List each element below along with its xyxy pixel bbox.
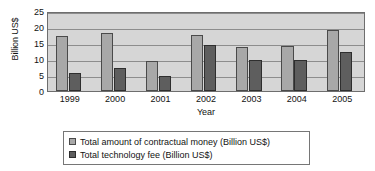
bar (340, 52, 352, 91)
y-axis-tick-label: 25 (34, 8, 44, 17)
bar (204, 45, 216, 91)
legend-swatch-icon (69, 151, 76, 158)
chart-legend: Total amount of contractual money (Billi… (63, 131, 310, 165)
bar (249, 60, 261, 91)
x-axis-tick-label: 2002 (183, 94, 228, 108)
legend-item: Total technology fee (Billion US$) (69, 148, 304, 161)
bar-group (138, 13, 183, 91)
bar (281, 46, 293, 91)
y-axis-tick-label: 10 (34, 56, 44, 65)
x-axis-tick-label: 2005 (320, 94, 365, 108)
bar (294, 60, 306, 91)
y-axis-tick-label: 20 (34, 24, 44, 33)
x-axis-tick-label: 1999 (47, 94, 92, 108)
bar (114, 68, 126, 91)
x-axis-tick-label: 2001 (138, 94, 183, 108)
x-axis-tick-label: 2000 (92, 94, 137, 108)
bar-group (93, 13, 138, 91)
bar (146, 61, 158, 91)
bar (159, 76, 171, 91)
bar (69, 73, 81, 91)
plot-area (47, 12, 365, 92)
bar (191, 35, 203, 91)
legend-item-label: Total technology fee (Billion US$) (80, 150, 213, 160)
y-axis-tick-label: 0 (39, 88, 44, 97)
bar-group (229, 13, 274, 91)
bar-chart-figure: Billion US$ 25 20 15 10 5 0 199920002001… (0, 0, 375, 171)
x-axis-tick-label: 2004 (274, 94, 319, 108)
y-axis-tick-label: 5 (39, 72, 44, 81)
y-axis-tick-labels: 25 20 15 10 5 0 (20, 12, 44, 92)
x-axis-tick-labels: 1999200020012002200320042005 (47, 94, 365, 108)
bar-groups (48, 13, 364, 91)
x-axis-title: Year (47, 107, 365, 117)
bar (56, 36, 68, 91)
bar-group (319, 13, 364, 91)
bar (236, 47, 248, 91)
legend-item-label: Total amount of contractual money (Billi… (80, 137, 270, 147)
y-axis-title: Billion US$ (10, 2, 20, 76)
x-axis-tick-label: 2003 (229, 94, 274, 108)
y-axis-tick-label: 15 (34, 40, 44, 49)
bar-group (274, 13, 319, 91)
bar-group (48, 13, 93, 91)
plot-area-wrapper (47, 12, 365, 92)
bar (327, 30, 339, 91)
legend-swatch-icon (69, 138, 76, 145)
bar-group (183, 13, 228, 91)
bar (101, 33, 113, 91)
legend-item: Total amount of contractual money (Billi… (69, 135, 304, 148)
